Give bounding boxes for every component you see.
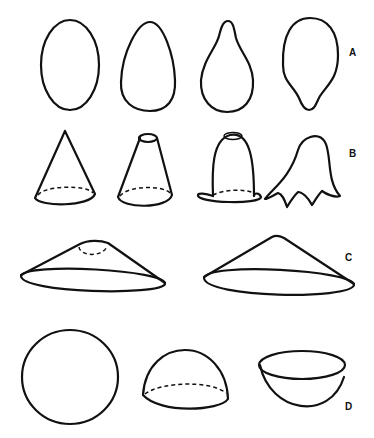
row-c (21, 236, 354, 295)
shape-bowl-rim (259, 351, 345, 379)
row-label-b: B (349, 148, 356, 159)
row-label-c: C (345, 252, 352, 263)
shapes-figure (0, 0, 374, 438)
shape-bowl (260, 365, 344, 406)
shape-hemisphere (143, 350, 228, 409)
row-label-d: D (345, 401, 352, 412)
shape-cone (35, 131, 95, 204)
shape-egg (121, 22, 175, 111)
row-a (41, 18, 338, 112)
row-d (22, 330, 345, 424)
row-b (35, 131, 340, 207)
shape-oval (41, 20, 99, 110)
shape-truncated-cone (118, 138, 172, 206)
shape-bell (213, 135, 254, 196)
row-label-a: A (349, 47, 356, 58)
shape-pear (201, 21, 253, 112)
shape-tulip (265, 136, 340, 207)
shape-sphere (22, 330, 118, 424)
shape-inverted-pear (283, 18, 338, 110)
shape-shallow-cone (204, 269, 354, 295)
shape-lampshade (21, 269, 165, 292)
